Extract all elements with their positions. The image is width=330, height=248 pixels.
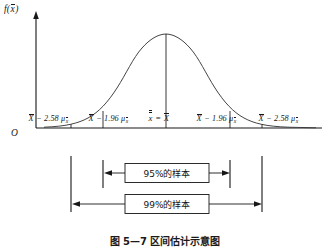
tick-label-minus-196: X − 1.96 μx: [88, 114, 129, 124]
interval-95-arrow-left: [104, 170, 112, 176]
interval-95-arrow-right: [222, 170, 230, 176]
tick-label-plus-196: X − 1.96 μx: [196, 114, 237, 124]
interval-99-arrow-left: [72, 201, 80, 207]
center-label: x = X: [148, 113, 170, 123]
interval-99-label: 99%的样本: [125, 198, 209, 211]
tick-label-plus-258: X − 2.58 μx: [258, 114, 299, 124]
figure-caption: 图 5—7 区间估计示意图: [0, 233, 330, 248]
y-axis-label-var: x: [10, 4, 15, 14]
interval-99-arrow-right: [254, 201, 262, 207]
y-axis: [33, 11, 39, 128]
origin-label: O: [11, 128, 18, 138]
interval-95-label: 95%的样本: [125, 167, 209, 180]
tick-label-minus-258: X − 2.58 μx: [28, 114, 69, 124]
y-axis-label: f(x): [4, 4, 19, 14]
